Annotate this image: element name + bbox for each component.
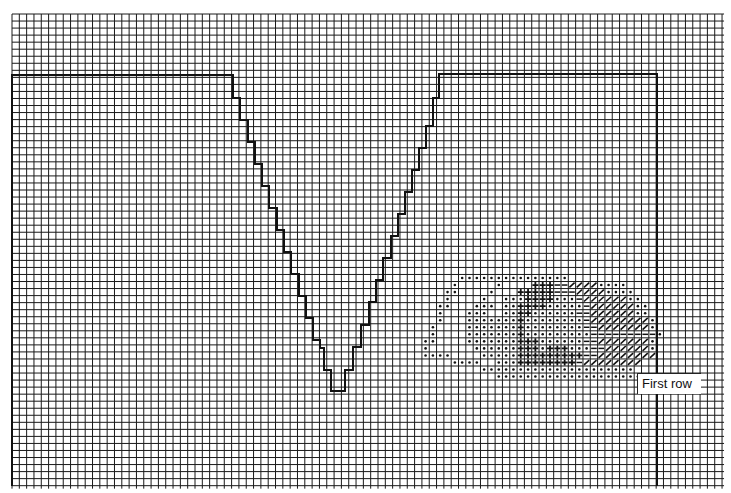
stitch-pattern xyxy=(424,277,661,378)
first-row-label: First row xyxy=(637,373,701,394)
chart-grid xyxy=(12,14,724,489)
knitting-chart xyxy=(0,0,731,493)
